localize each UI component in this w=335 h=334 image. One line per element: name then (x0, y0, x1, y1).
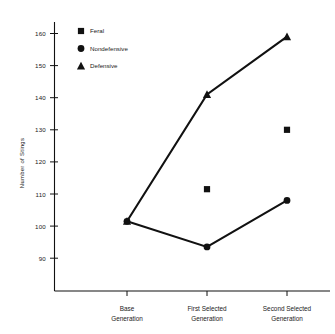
series-defensive (123, 32, 291, 224)
legend-item-feral: Feral (78, 27, 104, 34)
data-point-defensive-2 (283, 32, 291, 40)
x-tick-label-second-top: Second Selected (263, 305, 312, 312)
legend-label-nondefensive: Nondefensive (90, 45, 128, 52)
data-point-feral-0 (204, 186, 210, 192)
y-tick-label-160: 160 (35, 30, 46, 37)
legend-marker-nondefensive (78, 45, 85, 52)
y-axis-title: Number of Stings (19, 138, 25, 188)
chart-legend: FeralNondefensiveDefensive (77, 27, 128, 69)
chart-container: Number of Stings 160 150 140 130 120 110… (0, 0, 335, 334)
series-line-nondefensive (127, 200, 287, 247)
x-tick-label-base-bottom: Generation (111, 315, 143, 322)
y-tick-label-130: 130 (35, 126, 46, 133)
series-line-defensive (127, 37, 287, 222)
legend-label-feral: Feral (90, 27, 104, 34)
y-tick-label-110: 110 (36, 191, 47, 198)
x-tick-label-first-bottom: Generation (191, 315, 223, 322)
y-tick-label-90: 90 (39, 255, 47, 262)
data-point-nondefensive-1 (204, 244, 211, 251)
y-tick-label-140: 140 (35, 94, 46, 101)
legend-marker-feral (78, 28, 84, 34)
series-nondefensive (124, 197, 291, 250)
y-tick-label-150: 150 (35, 62, 46, 69)
series-layer (123, 32, 291, 250)
data-point-nondefensive-2 (284, 197, 291, 204)
x-tick-label-base-top: Base (120, 305, 135, 312)
data-point-feral-1 (284, 127, 290, 133)
x-axis-ticks (127, 291, 287, 296)
stings-line-chart: Number of Stings 160 150 140 130 120 110… (0, 0, 335, 334)
legend-marker-defensive (77, 62, 85, 70)
series-feral (204, 127, 290, 193)
legend-label-defensive: Defensive (90, 62, 118, 69)
x-tick-label-first-top: First Selected (187, 305, 227, 312)
x-tick-label-second-bottom: Generation (271, 315, 303, 322)
legend-item-nondefensive: Nondefensive (78, 45, 129, 52)
legend-item-defensive: Defensive (77, 62, 118, 70)
y-tick-label-120: 120 (35, 158, 46, 165)
y-tick-label-100: 100 (35, 223, 46, 230)
